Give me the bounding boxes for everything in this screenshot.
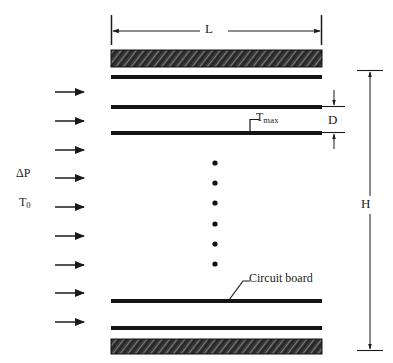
circuit-board-label: Circuit board [249, 272, 313, 284]
dimension-label-H: H [361, 197, 370, 210]
circuit-board-5 [111, 326, 322, 330]
pressure-drop-label: ΔP [16, 167, 30, 179]
flow-arrows [55, 92, 84, 322]
pressure-drop-base: ΔP [16, 166, 30, 180]
circuit-board-2 [111, 105, 322, 109]
circuit-board-3 [111, 131, 322, 135]
circuit-board-4 [111, 299, 322, 303]
dimension-label-D: D [328, 113, 337, 126]
bottom-hatched-plate [111, 339, 322, 354]
figure-container: L D H Tmax ΔP T0 Circuit board [0, 0, 393, 363]
circuit-board-1 [111, 75, 322, 79]
inlet-temperature-label: T0 [19, 196, 31, 210]
max-temperature-label: Tmax [256, 111, 279, 125]
top-hatched-plate [111, 50, 322, 67]
tmax-subscript: max [263, 115, 278, 125]
dimension-L [112, 15, 322, 45]
schematic-drawing [0, 0, 393, 363]
circuit-board-leader-line [229, 281, 250, 300]
inlet-temperature-subscript: 0 [26, 200, 31, 210]
dimension-label-L: L [205, 22, 213, 35]
ellipsis-dots [212, 160, 217, 266]
